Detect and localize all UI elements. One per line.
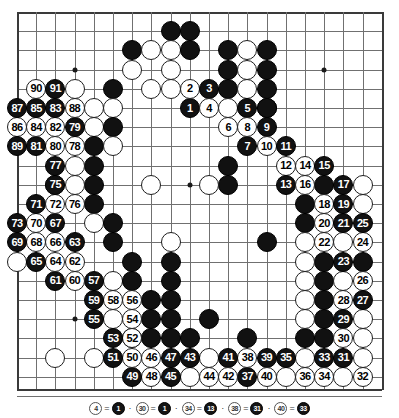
stone-white[interactable] (84, 213, 104, 233)
stone-white[interactable] (161, 60, 181, 80)
stone-black[interactable] (314, 290, 334, 310)
move-stone-65[interactable]: 65 (26, 252, 46, 272)
stone-black[interactable] (295, 213, 315, 233)
move-stone-80[interactable]: 80 (45, 136, 65, 156)
move-stone-77[interactable]: 77 (45, 156, 65, 176)
move-stone-37[interactable]: 37 (237, 367, 257, 387)
stone-white[interactable] (161, 40, 181, 60)
move-stone-68[interactable]: 68 (26, 232, 46, 252)
move-stone-91[interactable]: 91 (45, 79, 65, 99)
move-stone-2[interactable]: 2 (180, 79, 200, 99)
stone-black[interactable] (353, 252, 373, 272)
stone-white[interactable] (45, 348, 65, 368)
move-stone-84[interactable]: 84 (26, 117, 46, 137)
stone-white[interactable] (295, 290, 315, 310)
stone-black[interactable] (141, 290, 161, 310)
stone-black[interactable] (180, 40, 200, 60)
move-stone-17[interactable]: 17 (333, 175, 353, 195)
stone-black[interactable] (103, 213, 123, 233)
move-stone-58[interactable]: 58 (103, 290, 123, 310)
move-stone-59[interactable]: 59 (84, 290, 104, 310)
stone-black[interactable] (122, 40, 142, 60)
stone-white[interactable] (237, 79, 257, 99)
stone-white[interactable] (295, 271, 315, 291)
move-stone-85[interactable]: 85 (26, 98, 46, 118)
stone-white[interactable] (295, 348, 315, 368)
move-stone-61[interactable]: 61 (45, 271, 65, 291)
move-stone-26[interactable]: 26 (353, 271, 373, 291)
stone-black[interactable] (257, 40, 277, 60)
move-stone-89[interactable]: 89 (7, 136, 27, 156)
stone-black[interactable] (84, 194, 104, 214)
stone-white[interactable] (103, 98, 123, 118)
move-stone-19[interactable]: 19 (333, 194, 353, 214)
move-stone-53[interactable]: 53 (103, 328, 123, 348)
move-stone-56[interactable]: 56 (122, 290, 142, 310)
move-stone-75[interactable]: 75 (45, 175, 65, 195)
move-stone-67[interactable]: 67 (45, 213, 65, 233)
stone-black[interactable] (257, 60, 277, 80)
stone-black[interactable] (218, 156, 238, 176)
move-stone-82[interactable]: 82 (45, 117, 65, 137)
stone-white[interactable] (7, 252, 27, 272)
stone-black[interactable] (103, 117, 123, 137)
move-stone-4[interactable]: 4 (199, 98, 219, 118)
move-stone-34[interactable]: 34 (314, 367, 334, 387)
move-stone-7[interactable]: 7 (237, 136, 257, 156)
move-stone-24[interactable]: 24 (353, 232, 373, 252)
stone-black[interactable] (295, 328, 315, 348)
stone-black[interactable] (314, 328, 334, 348)
stone-white[interactable] (333, 271, 353, 291)
stone-black[interactable] (257, 98, 277, 118)
move-stone-41[interactable]: 41 (218, 348, 238, 368)
move-stone-73[interactable]: 73 (7, 213, 27, 233)
stone-white[interactable] (353, 328, 373, 348)
move-stone-88[interactable]: 88 (65, 98, 85, 118)
stone-black[interactable] (257, 79, 277, 99)
stone-white[interactable] (141, 79, 161, 99)
stone-black[interactable] (199, 309, 219, 329)
stone-black[interactable] (218, 40, 238, 60)
move-stone-16[interactable]: 16 (295, 175, 315, 195)
stone-black[interactable] (218, 79, 238, 99)
move-stone-48[interactable]: 48 (141, 367, 161, 387)
move-stone-81[interactable]: 81 (26, 136, 46, 156)
stone-white[interactable] (295, 252, 315, 272)
stone-white[interactable] (65, 79, 85, 99)
stone-black[interactable] (218, 60, 238, 80)
stone-black[interactable] (161, 21, 181, 41)
stone-black[interactable] (161, 271, 181, 291)
stone-white[interactable] (141, 40, 161, 60)
stone-black[interactable] (141, 309, 161, 329)
move-stone-47[interactable]: 47 (161, 348, 181, 368)
move-stone-11[interactable]: 11 (276, 136, 296, 156)
move-stone-20[interactable]: 20 (314, 213, 334, 233)
move-stone-14[interactable]: 14 (295, 156, 315, 176)
stone-black[interactable] (295, 194, 315, 214)
move-stone-72[interactable]: 72 (45, 194, 65, 214)
stone-black[interactable] (84, 136, 104, 156)
stone-white[interactable] (199, 348, 219, 368)
stone-white[interactable] (84, 98, 104, 118)
stone-black[interactable] (84, 175, 104, 195)
stone-white[interactable] (84, 348, 104, 368)
move-stone-52[interactable]: 52 (122, 328, 142, 348)
stone-black[interactable] (122, 252, 142, 272)
move-stone-46[interactable]: 46 (141, 348, 161, 368)
stone-white[interactable] (295, 309, 315, 329)
stone-black[interactable] (314, 309, 334, 329)
stone-black[interactable] (122, 271, 142, 291)
stone-white[interactable] (103, 136, 123, 156)
stone-black[interactable] (180, 328, 200, 348)
move-stone-83[interactable]: 83 (45, 98, 65, 118)
stone-black[interactable] (314, 271, 334, 291)
stone-black[interactable] (161, 252, 181, 272)
stone-white[interactable] (295, 232, 315, 252)
move-stone-28[interactable]: 28 (333, 290, 353, 310)
move-stone-3[interactable]: 3 (199, 79, 219, 99)
stone-black[interactable] (141, 328, 161, 348)
stone-white[interactable] (237, 60, 257, 80)
stone-white[interactable] (237, 40, 257, 60)
stone-black[interactable] (257, 232, 277, 252)
move-stone-25[interactable]: 25 (353, 213, 373, 233)
